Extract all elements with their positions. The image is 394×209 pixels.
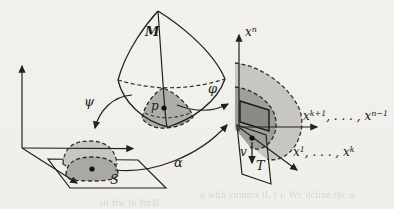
axis-x1k-sup1: 1 [300,145,305,154]
axis-xk1-sup2: n−1 [371,109,388,118]
axis-x1k-sep: , . . . , [305,145,343,159]
axis-x1k-label: x1, . . . , xk [293,146,355,158]
bleed-through-text-left: ilt ftw lo ftndl [100,198,159,208]
figure-svg [0,0,394,209]
figure-canvas: M p ψ φ α S T v xn xk+1, . . . , xn−1 x1… [0,0,394,209]
chart-origin-dot [249,135,254,140]
axis-x1k-base1: x [293,145,300,159]
axis-xk1-label: xk+1, . . . , xn−1 [303,110,388,122]
axis-xn-sup: n [252,25,257,34]
s-chart-point-dot [89,166,94,171]
axis-x1k-sup2: k [350,145,355,154]
manifold-outline-left [118,11,158,80]
point-p-label: p [151,100,159,112]
axis-xn-label: xn [245,26,257,38]
set-t-label: T [256,159,265,172]
manifold-outline-right [158,11,225,79]
set-s-label: S [110,173,119,186]
manifold-label: M [145,25,159,38]
axis-xk1-base1: x [303,109,310,123]
phi-map-label: φ [208,82,217,95]
axis-xk1-sep: , . . . , [326,109,364,123]
point-p-dot [161,105,166,110]
bleed-through-text-right: u wtih cumera tl. r i. Wc dcline thc u [200,190,355,200]
vector-v-label: v [240,146,247,158]
axis-xn-base: x [245,25,252,39]
left-axis-horizontal [22,148,133,149]
axis-x1k-base2: x [343,145,350,159]
psi-map-label: ψ [84,95,94,108]
alpha-arrow [115,125,227,171]
axis-xk1-sup1: k+1 [310,109,326,118]
alpha-map-label: α [174,156,183,169]
